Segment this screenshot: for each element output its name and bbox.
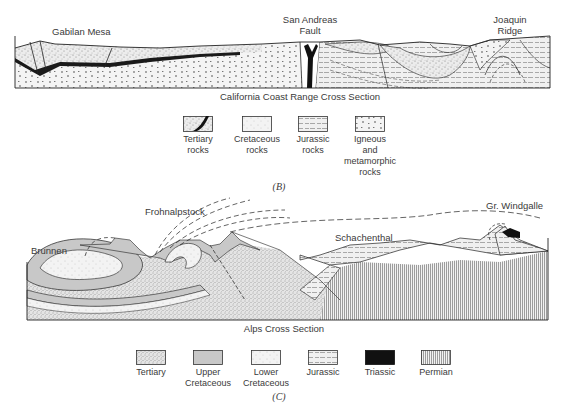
upper-cretaceous-swatch-icon: [193, 350, 223, 365]
triassic-swatch-icon: [365, 350, 395, 365]
igneous-swatch-icon: [355, 116, 385, 132]
legend-igneous-metamorphic-rocks: Igneous and metamorphic rocks: [335, 116, 405, 178]
label-schachenthal: Schachenthal: [335, 232, 393, 243]
panel-label-b: (B): [264, 181, 294, 192]
legend-jurassic: Jurassic: [295, 350, 351, 378]
tertiary-swatch-icon: [183, 116, 213, 132]
legend-upper-cretaceous: Upper Cretaceous: [178, 350, 238, 389]
coast-range-title: California Coast Range Cross Section: [180, 91, 420, 102]
legend-cretaceous-rocks: Cretaceous rocks: [222, 116, 292, 156]
legend-lower-cretaceous: Lower Cretaceous: [236, 350, 296, 389]
legend-tertiary-rocks: Tertiary rocks: [168, 116, 228, 156]
legend-permian: Permian: [408, 350, 464, 378]
alps-title: Alps Cross Section: [224, 323, 344, 334]
label-fault: Fault: [280, 25, 340, 36]
label-ridge: Ridge: [485, 25, 535, 36]
coast-range-cross-section: [15, 36, 550, 88]
cretaceous-swatch-icon: [242, 116, 272, 132]
panel-label-c: (C): [264, 391, 294, 402]
legend-jurassic-rocks: Jurassic rocks: [283, 116, 343, 156]
permian-swatch-icon: [421, 350, 451, 365]
legend-tertiary: Tertiary: [123, 350, 179, 378]
legend-triassic: Triassic: [352, 350, 408, 378]
jurassic-swatch-icon: [298, 116, 328, 132]
label-joaquin-ridge: Joaquin Ridge: [485, 14, 535, 36]
tertiary-swatch-icon: [136, 350, 166, 365]
label-frohnalpstock: Frohnalpstock: [145, 206, 205, 217]
truncated-caption: [0, 411, 568, 420]
label-joaquin: Joaquin: [485, 14, 535, 25]
label-brunnen: Brunnen: [31, 245, 67, 256]
label-gabilan-mesa: Gabilan Mesa: [52, 26, 111, 37]
alps-cross-section: [27, 198, 548, 320]
jurassic-swatch-icon: [308, 350, 338, 365]
lower-cretaceous-swatch-icon: [251, 350, 281, 365]
label-gr-windgalle: Gr. Windgalle: [486, 200, 543, 211]
label-san-andreas: San Andreas: [280, 14, 340, 25]
label-san-andreas-fault: San Andreas Fault: [280, 14, 340, 36]
